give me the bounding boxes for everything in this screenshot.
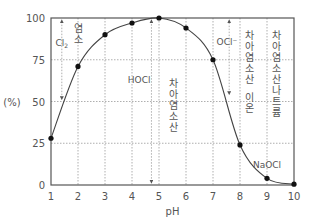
point-label-naocl: NaOCl bbox=[253, 160, 281, 170]
species-label-hocl: HOCl bbox=[128, 75, 151, 85]
svg-text:차: 차 bbox=[245, 30, 254, 41]
data-point bbox=[156, 15, 161, 20]
svg-text:염: 염 bbox=[74, 23, 83, 34]
svg-text:소: 소 bbox=[245, 63, 254, 74]
x-tick-label: 5 bbox=[156, 191, 162, 202]
svg-text:염: 염 bbox=[245, 52, 254, 63]
y-tick-label: 75 bbox=[32, 55, 45, 66]
x-tick-label: 1 bbox=[48, 191, 54, 202]
svg-text:소: 소 bbox=[169, 111, 178, 122]
x-tick-label: 4 bbox=[129, 191, 135, 202]
svg-text:소: 소 bbox=[74, 34, 83, 45]
vertical-label-sodium-hypochlorite: 차아염소산나트륨 bbox=[272, 30, 281, 118]
data-point bbox=[264, 176, 269, 181]
svg-text:염: 염 bbox=[272, 52, 281, 63]
svg-text:염: 염 bbox=[169, 100, 178, 111]
data-point bbox=[102, 32, 107, 37]
data-point bbox=[48, 136, 53, 141]
svg-text:차: 차 bbox=[272, 30, 281, 41]
species-label-cl2: Cl2 bbox=[55, 38, 68, 49]
y-tick-label: 0 bbox=[39, 180, 45, 191]
x-tick-label: 6 bbox=[183, 191, 189, 202]
data-point bbox=[183, 25, 188, 30]
data-point bbox=[210, 57, 215, 62]
svg-text:트: 트 bbox=[272, 96, 281, 107]
svg-text:나: 나 bbox=[272, 85, 281, 96]
x-tick-label: 9 bbox=[264, 191, 270, 202]
y-tick-label: 100 bbox=[26, 13, 45, 24]
vertical-label-hypochlorite-ion: 차아염소산이온 bbox=[245, 30, 254, 114]
x-tick-label: 2 bbox=[75, 191, 81, 202]
annotation-ocl: OCl⁻ bbox=[217, 21, 238, 93]
svg-text:소: 소 bbox=[272, 63, 281, 74]
svg-text:아: 아 bbox=[272, 41, 281, 52]
svg-text:산: 산 bbox=[245, 74, 254, 85]
svg-text:산: 산 bbox=[272, 74, 281, 85]
x-tick-label: 3 bbox=[102, 191, 108, 202]
x-tick-label: 8 bbox=[237, 191, 243, 202]
vertical-label-chlorine: 염소 bbox=[74, 23, 83, 45]
svg-text:아: 아 bbox=[169, 89, 178, 100]
ph-chlorine-chart: Cl2HOClOCl⁻염소차아염소산차아염소산이온차아염소산나트륨NaOCl12… bbox=[0, 0, 315, 222]
data-point bbox=[129, 20, 134, 25]
data-point bbox=[237, 142, 242, 147]
x-tick-label: 10 bbox=[288, 191, 301, 202]
svg-text:온: 온 bbox=[245, 103, 254, 114]
x-tick-label: 7 bbox=[210, 191, 216, 202]
vertical-label-hypochlorous-acid: 차아염소산 bbox=[169, 78, 178, 133]
svg-text:아: 아 bbox=[245, 41, 254, 52]
data-point bbox=[291, 182, 296, 187]
chart-svg: Cl2HOClOCl⁻염소차아염소산차아염소산이온차아염소산나트륨NaOCl12… bbox=[0, 0, 315, 222]
y-tick-label: 25 bbox=[32, 138, 45, 149]
y-tick-label: 50 bbox=[32, 97, 45, 108]
y-axis-title: (%) bbox=[3, 97, 20, 108]
data-point bbox=[75, 64, 80, 69]
x-axis-title: pH bbox=[166, 206, 180, 217]
svg-text:륨: 륨 bbox=[272, 107, 281, 118]
svg-text:산: 산 bbox=[169, 122, 178, 133]
svg-text:이: 이 bbox=[245, 92, 254, 103]
svg-text:차: 차 bbox=[169, 78, 178, 89]
species-label-ocl: OCl⁻ bbox=[217, 37, 238, 47]
